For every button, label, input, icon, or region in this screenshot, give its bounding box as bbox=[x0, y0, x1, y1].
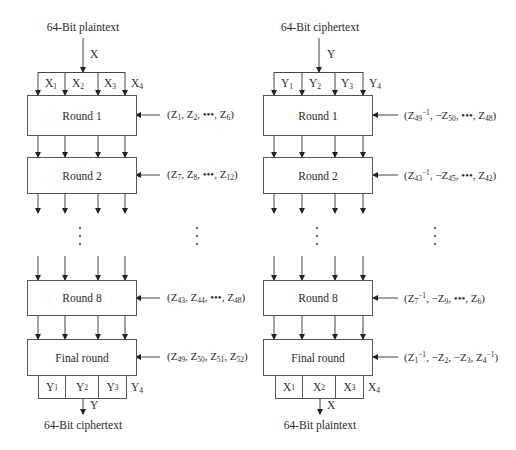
encryption-round-8: Round 8 bbox=[27, 280, 137, 316]
encryption-input-var: X bbox=[90, 49, 98, 61]
encryption-output-block-1: Y1 bbox=[38, 375, 66, 399]
decryption-output-block-2: X2 bbox=[302, 375, 336, 399]
encryption-key-final-round: (Z49, Z50, Z51, Z52) bbox=[167, 351, 248, 364]
decryption-output-block-3: X3 bbox=[335, 375, 364, 399]
decryption-input-block-3: Y3 bbox=[341, 78, 353, 91]
decryption-output-block-1: X1 bbox=[275, 375, 303, 399]
encryption-key-round-2: (Z7, Z8, •••, Z12) bbox=[167, 169, 238, 182]
decryption-input-block-1: Y1 bbox=[281, 78, 293, 91]
encryption-output-var: Y bbox=[90, 400, 98, 412]
encryption-round-2: Round 2 bbox=[27, 157, 137, 194]
decryption-key-round-1: (Z49−1, −Z50, •••, Z48) bbox=[404, 109, 496, 123]
encryption-key-round-8: (Z43, Z44, •••, Z48) bbox=[167, 292, 245, 305]
decryption-output-title: 64-Bit plaintext bbox=[284, 420, 357, 432]
decryption-final-round: Final round bbox=[263, 339, 373, 376]
encryption-key-round-1: (Z1, Z2, •••, Z6) bbox=[167, 109, 234, 122]
encryption-final-round: Final round bbox=[27, 339, 137, 376]
decryption-input-var: Y bbox=[327, 49, 335, 61]
decryption-input-block-4: Y4 bbox=[369, 78, 381, 91]
encryption-input-block-4: X4 bbox=[131, 78, 143, 91]
decryption-input-title: 64-Bit ciphertext bbox=[281, 22, 359, 34]
decryption-key-final-round: (Z1−1, −Z2, −Z3, Z4−1) bbox=[404, 351, 498, 365]
encryption-input-block-2: X2 bbox=[72, 78, 84, 91]
encryption-output-block-3: Y3 bbox=[98, 375, 127, 399]
encryption-output-block-4: Y4 bbox=[131, 382, 143, 395]
decryption-key-round-8: (Z7−1, −Z9, •••, Z6) bbox=[404, 292, 485, 306]
decryption-round-2: Round 2 bbox=[263, 157, 373, 194]
encryption-output-block-2: Y2 bbox=[65, 375, 99, 399]
encryption-input-block-3: X3 bbox=[104, 78, 116, 91]
decryption-round-8: Round 8 bbox=[263, 280, 373, 316]
encryption-round-1: Round 1 bbox=[27, 95, 137, 136]
decryption-output-var: X bbox=[327, 400, 335, 412]
decryption-round-1: Round 1 bbox=[263, 95, 373, 136]
encryption-output-title: 64-Bit ciphertext bbox=[44, 420, 122, 432]
encryption-input-block-1: X1 bbox=[45, 78, 57, 91]
decryption-output-block-4: X4 bbox=[368, 382, 380, 395]
decryption-input-block-2: Y2 bbox=[309, 78, 321, 91]
decryption-key-round-2: (Z43−1, −Z45, •••, Z42) bbox=[404, 169, 496, 183]
encryption-input-title: 64-Bit plaintext bbox=[47, 22, 120, 34]
